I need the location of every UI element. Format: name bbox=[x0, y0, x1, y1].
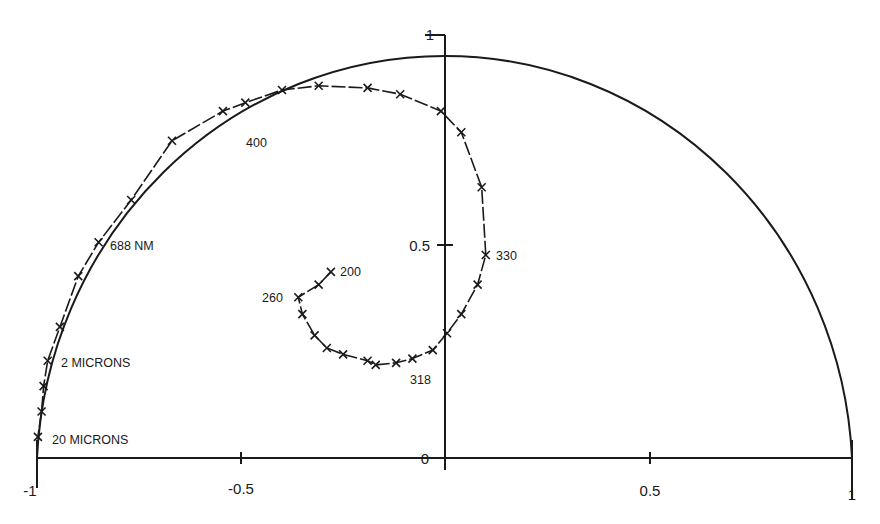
x-marker-icon bbox=[327, 268, 335, 276]
ytick-label-1: 1 bbox=[426, 26, 434, 43]
x-marker-icon bbox=[95, 238, 103, 246]
annotation-400: 400 bbox=[246, 136, 267, 150]
xtick-label-0: 0 bbox=[421, 450, 429, 467]
x-marker-icon bbox=[457, 310, 465, 318]
annotation-330: 330 bbox=[496, 249, 517, 263]
xtick-label-05: 0.5 bbox=[640, 482, 661, 499]
ytick-label-05: 0.5 bbox=[409, 237, 430, 254]
x-marker-icon bbox=[219, 107, 227, 115]
x-marker-icon bbox=[311, 331, 319, 339]
x-marker-icon bbox=[241, 99, 249, 107]
x-marker-icon bbox=[457, 128, 465, 136]
xtick-label-1: 1 bbox=[848, 486, 856, 503]
polar-spiral-chart: -1 -0.5 0 0.5 1 0.5 1 200 260 318 330 40… bbox=[0, 0, 880, 524]
annotation-200: 200 bbox=[340, 265, 361, 279]
annotation-688nm: 688 NM bbox=[110, 239, 154, 253]
annotation-260: 260 bbox=[262, 291, 283, 305]
xtick-label-neg05: -0.5 bbox=[228, 480, 254, 497]
annotation-318: 318 bbox=[410, 373, 431, 387]
x-marker-icon bbox=[127, 196, 135, 204]
x-marker-icon bbox=[315, 281, 323, 289]
x-marker-icon bbox=[437, 107, 445, 115]
x-marker-icon bbox=[323, 344, 331, 352]
x-marker-icon bbox=[74, 272, 82, 280]
x-marker-icon bbox=[168, 137, 176, 145]
annotation-2-microns: 2 MICRONS bbox=[61, 356, 130, 370]
x-marker-icon bbox=[429, 346, 437, 354]
xtick-label-neg1: -1 bbox=[23, 482, 36, 499]
annotation-20-microns: 20 MICRONS bbox=[52, 433, 128, 447]
x-marker-icon bbox=[396, 90, 404, 98]
